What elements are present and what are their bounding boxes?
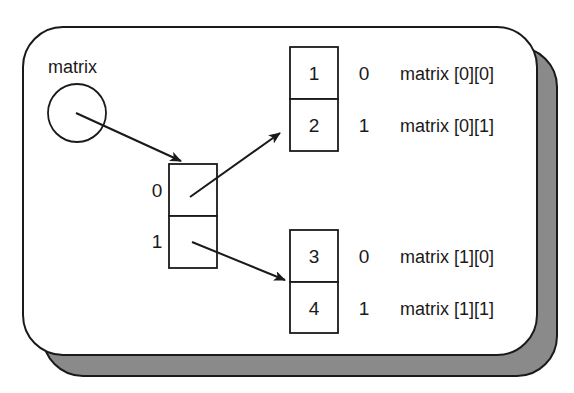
cell-0-0-index: 0 bbox=[359, 63, 370, 84]
cell-1-0-value: 3 bbox=[309, 246, 320, 267]
cell-1-0-label: matrix [1][0] bbox=[400, 247, 494, 267]
cell-0-1-index: 1 bbox=[359, 115, 370, 136]
cell-1-1-label: matrix [1][1] bbox=[400, 299, 494, 319]
cell-0-1-value: 2 bbox=[309, 115, 320, 136]
matrix-diagram: matrix 0 1 1 2 0 1 matrix [0][0] matrix … bbox=[0, 0, 574, 393]
row-array-cell-0 bbox=[169, 164, 217, 216]
cell-1-1-value: 4 bbox=[309, 298, 320, 319]
cell-0-0-label: matrix [0][0] bbox=[400, 64, 494, 84]
cell-0-1-label: matrix [0][1] bbox=[400, 116, 494, 136]
cell-0-0-value: 1 bbox=[309, 63, 320, 84]
row-array-index-1: 1 bbox=[152, 231, 163, 252]
pointer-label: matrix bbox=[48, 57, 97, 77]
cell-1-0-index: 0 bbox=[359, 246, 370, 267]
cell-1-1-index: 1 bbox=[359, 298, 370, 319]
row-array-index-0: 0 bbox=[152, 180, 163, 201]
